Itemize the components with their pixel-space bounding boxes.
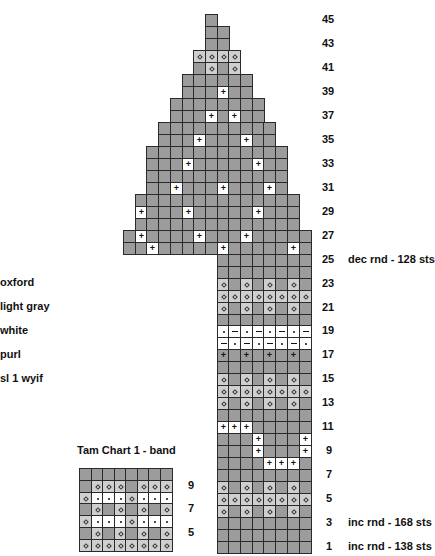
- dot-icon: [97, 498, 99, 500]
- diamond-icon: [164, 543, 170, 549]
- diamond-icon: [232, 54, 238, 60]
- row-note: inc rnd - 138 sts: [348, 540, 432, 552]
- plus-icon: +: [139, 208, 144, 217]
- dot-icon: [154, 521, 156, 523]
- row-label: 13: [322, 396, 334, 408]
- diamond-icon: [267, 306, 273, 312]
- plus-icon: +: [197, 136, 202, 145]
- band-row-label: 7: [188, 502, 194, 514]
- dash-icon: [221, 343, 227, 345]
- dot-icon: [120, 498, 122, 500]
- diamond-icon: [267, 294, 273, 300]
- plus-icon: +: [221, 244, 226, 253]
- diamond-icon: [221, 54, 227, 60]
- diamond-icon: [244, 497, 250, 503]
- plus-icon: +: [150, 244, 155, 253]
- band-row-label: 9: [188, 479, 194, 491]
- plus-icon: +: [197, 232, 202, 241]
- row-label: 21: [322, 301, 334, 313]
- dot-icon: [143, 498, 145, 500]
- diamond-icon: [141, 543, 147, 549]
- row-label: 19: [322, 324, 334, 336]
- row-label: 45: [322, 13, 334, 25]
- diamond-icon: [129, 543, 135, 549]
- diamond-icon: [244, 294, 250, 300]
- diamond-icon: [221, 282, 227, 288]
- diamond-icon: [221, 497, 227, 503]
- plus-icon: +: [209, 112, 214, 121]
- plus-icon: +: [221, 423, 226, 432]
- plus-icon: +: [221, 88, 226, 97]
- diamond-icon: [267, 389, 273, 395]
- plus-icon: +: [139, 232, 144, 241]
- diamond-icon: [118, 507, 124, 513]
- diamond-icon: [221, 306, 227, 312]
- legend-purl: purl: [0, 348, 21, 360]
- diamond-icon: [244, 485, 250, 491]
- diamond-icon: [291, 294, 297, 300]
- dot-icon: [166, 498, 168, 500]
- diamond-icon: [141, 484, 147, 490]
- plus-icon: +: [174, 184, 179, 193]
- diamond-icon: [267, 497, 273, 503]
- dot-icon: [305, 343, 307, 345]
- diamond-icon: [141, 507, 147, 513]
- dot-icon: [258, 343, 260, 345]
- diamond-icon: [232, 294, 238, 300]
- dot-icon: [108, 521, 110, 523]
- plus-icon: +: [256, 447, 261, 456]
- diamond-icon: [303, 389, 309, 395]
- legend-white: white: [0, 324, 28, 336]
- diamond-icon: [256, 294, 262, 300]
- dot-icon: [108, 498, 110, 500]
- plus-icon: +: [267, 459, 272, 468]
- diamond-icon: [232, 66, 238, 72]
- dot-icon: [246, 331, 248, 333]
- dot-icon: [281, 343, 283, 345]
- row-label: 35: [322, 133, 334, 145]
- diamond-icon: [267, 509, 273, 515]
- dash-icon: [232, 331, 238, 333]
- diamond-icon: [95, 543, 101, 549]
- dot-icon: [143, 521, 145, 523]
- row-label: 11: [322, 420, 334, 432]
- plus-icon: +: [232, 423, 237, 432]
- diamond-icon: [244, 377, 250, 383]
- plus-icon: +: [244, 423, 249, 432]
- diamond-icon: [95, 484, 101, 490]
- row-label: 37: [322, 109, 334, 121]
- plus-icon: +: [244, 351, 249, 360]
- diamond-icon: [244, 282, 250, 288]
- diamond-icon: [83, 519, 89, 525]
- diamond-icon: [291, 377, 297, 383]
- diamond-icon: [244, 401, 250, 407]
- row-label: 7: [326, 468, 332, 480]
- diamond-icon: [129, 496, 135, 502]
- plus-icon: +: [221, 351, 226, 360]
- row-label: 17: [322, 348, 334, 360]
- band-row-label: 5: [188, 526, 194, 538]
- diamond-icon: [291, 306, 297, 312]
- diamond-icon: [267, 401, 273, 407]
- row-label: 5: [326, 492, 332, 504]
- row-label: 29: [322, 205, 334, 217]
- diamond-icon: [232, 389, 238, 395]
- band-chart-title: Tam Chart 1 - band: [77, 444, 176, 456]
- diamond-icon: [303, 294, 309, 300]
- diamond-icon: [279, 294, 285, 300]
- diamond-icon: [221, 377, 227, 383]
- diamond-icon: [152, 484, 158, 490]
- diamond-icon: [118, 543, 124, 549]
- plus-icon: +: [256, 435, 261, 444]
- dot-icon: [223, 331, 225, 333]
- dash-icon: [256, 331, 262, 333]
- plus-icon: +: [291, 459, 296, 468]
- dash-icon: [303, 331, 309, 333]
- row-note: inc rnd - 168 sts: [348, 516, 432, 528]
- dot-icon: [97, 521, 99, 523]
- diamond-icon: [256, 497, 262, 503]
- dot-icon: [166, 521, 168, 523]
- diamond-icon: [291, 509, 297, 515]
- diamond-icon: [209, 54, 215, 60]
- plus-icon: +: [232, 112, 237, 121]
